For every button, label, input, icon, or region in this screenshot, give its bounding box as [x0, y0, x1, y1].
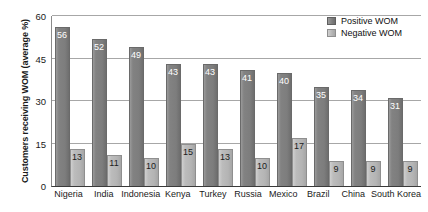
x-tick-label: China — [336, 189, 371, 199]
bar-negative[interactable]: 9 — [329, 161, 344, 187]
bar-value-label: 34 — [353, 94, 363, 103]
bar-value-label: 13 — [72, 153, 82, 162]
bar-group: 5613 — [51, 16, 88, 186]
bar-group: 5211 — [88, 16, 125, 186]
bar-value-label: 17 — [294, 142, 304, 151]
bar-chart: Customers receiving WOM (average %) 0153… — [0, 0, 428, 212]
x-tick-label: South Korea — [371, 189, 421, 199]
x-tick-label: India — [86, 189, 121, 199]
bar-value-label: 41 — [242, 74, 252, 83]
x-axis-labels: NigeriaIndiaIndonesiaKenyaTurkeyRussiaMe… — [51, 189, 421, 199]
bar-value-label: 11 — [109, 159, 118, 168]
bar-value-label: 40 — [279, 77, 289, 86]
bar-group: 359 — [310, 16, 347, 186]
y-tick-label: 15 — [6, 138, 46, 149]
bar-negative[interactable]: 10 — [144, 158, 159, 186]
bar-negative[interactable]: 9 — [366, 161, 381, 187]
bar-value-label: 49 — [131, 51, 141, 60]
bar-group: 319 — [384, 16, 421, 186]
bar-positive[interactable]: 43 — [166, 64, 181, 186]
bar-value-label: 10 — [146, 162, 156, 171]
bar-value-label: 56 — [57, 31, 67, 40]
x-tick-label: Nigeria — [51, 189, 86, 199]
bar-positive[interactable]: 52 — [92, 39, 107, 186]
bar-group: 349 — [347, 16, 384, 186]
bar-positive[interactable]: 34 — [351, 90, 366, 186]
bar-value-label: 9 — [407, 165, 412, 174]
legend-swatch-icon — [327, 17, 336, 25]
bar-value-label: 52 — [94, 43, 104, 52]
bar-group: 4110 — [236, 16, 273, 186]
legend-swatch-icon — [327, 29, 336, 37]
legend-item[interactable]: Negative WOM — [327, 27, 402, 38]
bar-value-label: 10 — [257, 162, 267, 171]
bar-group: 4313 — [199, 16, 236, 186]
bar-group: 4910 — [125, 16, 162, 186]
bar-negative[interactable]: 13 — [218, 149, 233, 186]
x-tick-label: Turkey — [195, 189, 230, 199]
bar-positive[interactable]: 49 — [129, 47, 144, 186]
bar-positive[interactable]: 40 — [277, 73, 292, 186]
x-tick-label: Brazil — [301, 189, 336, 199]
x-tick-label: Indonesia — [121, 189, 160, 199]
chart-legend: Positive WOMNegative WOM — [327, 15, 402, 39]
bar-value-label: 35 — [316, 91, 326, 100]
bar-value-label: 9 — [333, 165, 338, 174]
legend-label: Negative WOM — [341, 28, 402, 38]
bar-positive[interactable]: 31 — [388, 98, 403, 186]
bar-negative[interactable]: 9 — [403, 161, 418, 187]
y-tick-label: 0 — [6, 181, 46, 192]
bar-positive[interactable]: 43 — [203, 64, 218, 186]
y-tick-label: 45 — [6, 53, 46, 64]
legend-label: Positive WOM — [341, 16, 398, 26]
bar-value-label: 31 — [390, 102, 400, 111]
bar-positive[interactable]: 41 — [240, 70, 255, 186]
bar-negative[interactable]: 15 — [181, 144, 196, 187]
bars-layer: 5613521149104315431341104017359349319 — [51, 16, 421, 186]
bar-positive[interactable]: 56 — [55, 27, 70, 186]
bar-negative[interactable]: 17 — [292, 138, 307, 186]
y-tick-label: 60 — [6, 11, 46, 22]
bar-group: 4017 — [273, 16, 310, 186]
bar-value-label: 15 — [183, 148, 193, 157]
bar-negative[interactable]: 10 — [255, 158, 270, 186]
bar-value-label: 43 — [205, 68, 215, 77]
bar-value-label: 43 — [168, 68, 178, 77]
bar-negative[interactable]: 11 — [107, 155, 122, 186]
x-tick-label: Mexico — [266, 189, 301, 199]
bar-value-label: 13 — [220, 153, 230, 162]
x-tick-label: Russia — [230, 189, 265, 199]
legend-item[interactable]: Positive WOM — [327, 15, 402, 26]
x-tick-label: Kenya — [160, 189, 195, 199]
y-tick-label: 30 — [6, 96, 46, 107]
bar-negative[interactable]: 13 — [70, 149, 85, 186]
bar-group: 4315 — [162, 16, 199, 186]
bar-positive[interactable]: 35 — [314, 87, 329, 186]
bar-value-label: 9 — [370, 165, 375, 174]
